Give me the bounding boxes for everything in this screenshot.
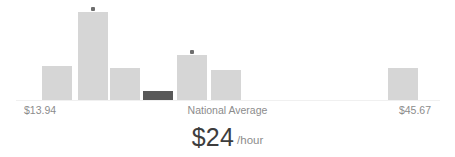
headline: $24/hour bbox=[0, 122, 455, 152]
bar-3[interactable] bbox=[110, 68, 140, 101]
bar-1[interactable] bbox=[42, 66, 72, 101]
bar-6[interactable] bbox=[211, 70, 241, 101]
bar-marker-5 bbox=[190, 50, 194, 54]
headline-amount: $24 bbox=[192, 123, 234, 151]
axis-label-national-average: National Average bbox=[0, 102, 455, 118]
bar-marker-2 bbox=[91, 7, 95, 11]
bar-chart bbox=[0, 0, 455, 101]
axis-label-row: $13.94 National Average $45.67 bbox=[0, 102, 455, 120]
pay-range-widget: $13.94 National Average $45.67 $24/hour bbox=[0, 0, 455, 157]
axis-label-max: $45.67 bbox=[399, 102, 431, 118]
axis-baseline bbox=[16, 100, 440, 101]
bar-5[interactable] bbox=[177, 55, 207, 101]
bar-7[interactable] bbox=[388, 68, 418, 101]
headline-unit: /hour bbox=[237, 134, 263, 146]
bar-2[interactable] bbox=[78, 12, 108, 101]
